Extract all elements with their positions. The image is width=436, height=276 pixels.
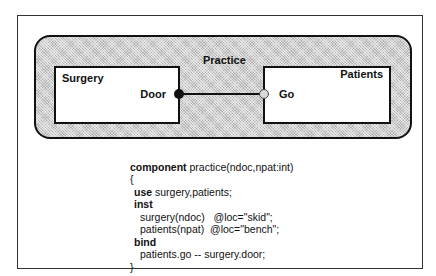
keyword-inst: inst bbox=[130, 198, 293, 211]
door-port-icon bbox=[174, 89, 184, 99]
keyword-component: component bbox=[130, 161, 187, 173]
code-open-brace: { bbox=[130, 173, 293, 186]
code-bind-stmt: patients.go -- surgery.door; bbox=[130, 248, 293, 261]
code-text: surgery,patients; bbox=[152, 186, 232, 198]
code-inst-surgery: surgery(ndoc) @loc="skid"; bbox=[130, 211, 293, 224]
code-text: practice(ndoc,npat:int) bbox=[187, 161, 294, 173]
code-listing: component practice(ndoc,npat:int){use su… bbox=[130, 148, 293, 276]
code-close-brace: } bbox=[130, 261, 293, 274]
keyword-use: use bbox=[134, 186, 152, 198]
keyword-bind: bind bbox=[130, 236, 293, 249]
code-inst-patients: patients(npat) @loc="bench"; bbox=[130, 223, 293, 236]
go-port-icon bbox=[260, 90, 269, 99]
